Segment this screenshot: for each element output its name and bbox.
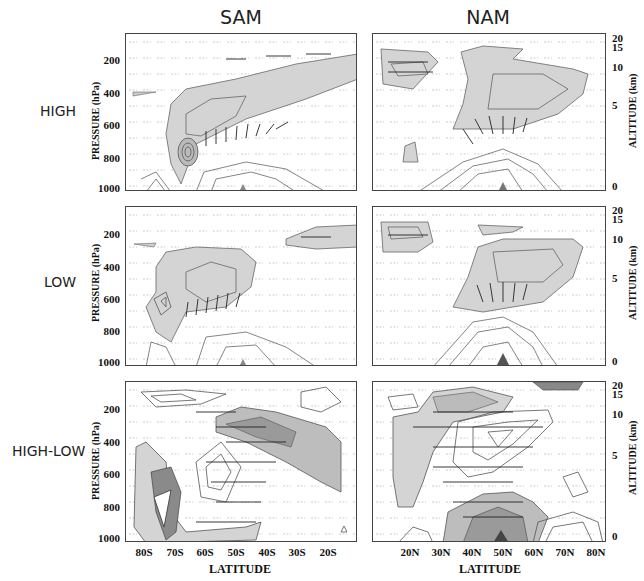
- alt-tick: 0: [612, 180, 618, 192]
- ytick: 1000: [80, 356, 120, 368]
- ytick: 400: [80, 261, 120, 273]
- cross-section-plot: [373, 34, 606, 191]
- xtick: 20S: [313, 546, 343, 558]
- xtick: 30S: [282, 546, 312, 558]
- xtick: 20N: [395, 546, 425, 558]
- latitude-axis-label: LATITUDE: [430, 562, 550, 577]
- cross-section-plot: [126, 207, 357, 366]
- alt-tick: 5: [612, 99, 618, 111]
- column-title-nam: NAM: [448, 6, 528, 28]
- xtick: 30N: [426, 546, 456, 558]
- alt-tick: 10: [612, 233, 623, 245]
- cross-section-plot: [373, 207, 606, 366]
- alt-tick: 15: [612, 41, 623, 53]
- altitude-axis-label: ALTITUDE (km): [627, 246, 638, 320]
- ytick: 800: [80, 501, 120, 513]
- altitude-axis-label: ALTITUDE (km): [627, 421, 638, 495]
- alt-tick: 0: [612, 355, 618, 367]
- xtick: 60N: [519, 546, 549, 558]
- panel-high-low-nam: [372, 381, 606, 542]
- xtick: 40S: [252, 546, 282, 558]
- xtick: 40N: [457, 546, 487, 558]
- cross-section-plot: [126, 34, 357, 191]
- row-label-high-low: HIGH-LOW: [12, 443, 85, 459]
- altitude-axis-label: ALTITUDE (km): [627, 74, 638, 148]
- alt-tick: 10: [612, 408, 623, 420]
- panel-high-low-sam: [125, 381, 357, 542]
- ytick: 200: [80, 228, 120, 240]
- panel-high-sam: [125, 33, 357, 191]
- ytick: 800: [80, 325, 120, 337]
- alt-tick: 10: [612, 61, 623, 73]
- xtick: 50S: [221, 546, 251, 558]
- pressure-axis-label: PRESSURE (hPa): [90, 244, 101, 322]
- ytick: 200: [80, 54, 120, 66]
- cross-section-plot: [373, 382, 606, 542]
- ytick: 600: [80, 119, 120, 131]
- column-title-sam: SAM: [201, 6, 281, 28]
- ytick: 400: [80, 436, 120, 448]
- alt-tick: 0: [612, 530, 618, 542]
- row-label-high: HIGH: [40, 103, 76, 119]
- xtick: 70N: [550, 546, 580, 558]
- panel-low-nam: [372, 206, 606, 366]
- ytick: 1000: [80, 532, 120, 544]
- ytick: 400: [80, 87, 120, 99]
- xtick: 50N: [488, 546, 518, 558]
- xtick: 80S: [129, 546, 159, 558]
- ytick: 200: [80, 403, 120, 415]
- ytick: 800: [80, 152, 120, 164]
- ytick: 600: [80, 293, 120, 305]
- alt-tick: 15: [612, 388, 623, 400]
- ytick: 600: [80, 468, 120, 480]
- alt-tick: 15: [612, 213, 623, 225]
- latitude-axis-label: LATITUDE: [180, 562, 300, 577]
- xtick: 80N: [581, 546, 611, 558]
- row-label-low: LOW: [44, 274, 76, 290]
- pressure-axis-label: PRESSURE (hPa): [90, 422, 101, 500]
- panel-high-nam: [372, 33, 606, 191]
- xtick: 60S: [190, 546, 220, 558]
- cross-section-plot: [126, 382, 357, 542]
- panel-low-sam: [125, 206, 357, 366]
- ytick: 1000: [80, 182, 120, 194]
- alt-tick: 5: [612, 272, 618, 284]
- alt-tick: 5: [612, 449, 618, 461]
- xtick: 70S: [160, 546, 190, 558]
